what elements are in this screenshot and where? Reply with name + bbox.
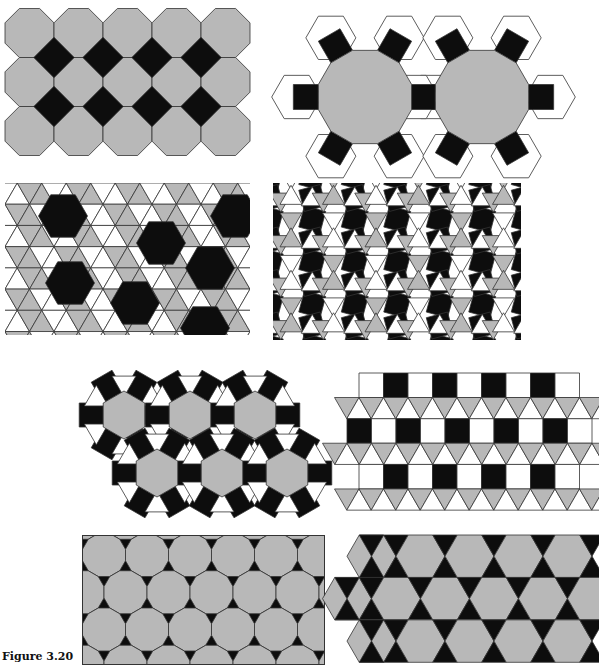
square-tile bbox=[511, 333, 538, 360]
square-tile bbox=[519, 419, 544, 444]
triangle-tile bbox=[30, 332, 55, 353]
triangle-tile bbox=[30, 162, 55, 183]
square-tile bbox=[359, 373, 384, 398]
dodecagon-tile bbox=[169, 608, 212, 651]
triangle-tile bbox=[66, 162, 91, 183]
triangle-tile bbox=[250, 289, 275, 310]
square-tile bbox=[396, 419, 421, 444]
square-tile bbox=[384, 464, 409, 489]
square-tile bbox=[256, 163, 283, 190]
square-tile bbox=[506, 373, 531, 398]
panel-trihexagonal bbox=[347, 535, 595, 665]
triangle-tile bbox=[0, 310, 5, 331]
square-tile bbox=[445, 419, 470, 444]
square-tile bbox=[408, 464, 433, 489]
dodecagon-tile bbox=[126, 534, 169, 577]
triangle-tile bbox=[128, 332, 153, 353]
panel-snub-hexagonal bbox=[5, 183, 250, 335]
triangle-tile bbox=[250, 247, 275, 268]
dodecagon-tile bbox=[255, 608, 298, 651]
triangle-tile bbox=[250, 310, 275, 331]
triangle-tile bbox=[450, 340, 472, 359]
triangle-tile bbox=[250, 225, 275, 246]
square-tile bbox=[384, 373, 409, 398]
square-tile bbox=[308, 461, 332, 485]
triangle-tile bbox=[54, 162, 79, 183]
triangle-tile bbox=[493, 340, 515, 359]
triangle-tile bbox=[201, 162, 226, 183]
dodecagon-tile bbox=[104, 571, 147, 614]
triangle-tile bbox=[525, 321, 547, 340]
snub-hexagonal-tiling bbox=[5, 183, 250, 335]
triangle-tile bbox=[79, 162, 104, 183]
triangle-tile bbox=[525, 236, 547, 255]
snub-square-tiling bbox=[273, 183, 521, 340]
triangle-tile bbox=[250, 204, 275, 225]
dodecagon-tile bbox=[233, 571, 276, 614]
triangle-tile bbox=[238, 340, 260, 359]
panel-rhombitrihexagonal bbox=[80, 358, 325, 517]
dodecagon-tile bbox=[212, 608, 255, 651]
triangle-tile bbox=[0, 268, 5, 289]
dodecagon-tile bbox=[255, 534, 298, 577]
triangle-tile bbox=[525, 193, 547, 212]
square-tile bbox=[79, 403, 103, 427]
triangle-tile bbox=[5, 162, 30, 183]
triangle-tile bbox=[226, 162, 251, 183]
square-tile bbox=[482, 373, 507, 398]
square-tile bbox=[347, 419, 372, 444]
square-tile bbox=[210, 403, 234, 427]
dodecagon-tile bbox=[318, 50, 411, 143]
square-tile bbox=[511, 312, 538, 339]
square-tile bbox=[470, 419, 495, 444]
triangle-tile bbox=[250, 183, 275, 204]
square-tile bbox=[506, 464, 531, 489]
triangle-tile bbox=[525, 278, 547, 297]
triangle-tile bbox=[0, 332, 5, 353]
triangle-tile bbox=[128, 162, 153, 183]
square-tile bbox=[555, 464, 580, 489]
square-tile bbox=[145, 403, 169, 427]
square-tile bbox=[433, 373, 458, 398]
triangle-tile bbox=[152, 162, 177, 183]
square-tile bbox=[482, 464, 507, 489]
square-tile bbox=[511, 206, 538, 233]
triangle-tile bbox=[42, 162, 67, 183]
dodecagon-tile bbox=[212, 534, 255, 577]
triangle-tile bbox=[140, 162, 165, 183]
square-tile bbox=[293, 85, 318, 110]
trihexagonal-tiling bbox=[347, 535, 595, 665]
square-tile bbox=[511, 248, 538, 275]
triangle-tile bbox=[103, 332, 128, 353]
triangle-tile bbox=[91, 162, 116, 183]
figure-caption: Figure 3.20 bbox=[2, 650, 73, 663]
panel-truncated-hexagonal bbox=[82, 535, 325, 665]
square-tile bbox=[568, 419, 593, 444]
triangle-tile bbox=[177, 162, 202, 183]
dodecagon-tile bbox=[83, 608, 126, 651]
square-tile bbox=[177, 461, 201, 485]
square-tile bbox=[511, 270, 538, 297]
dodecagon-hexagon-square-tiling bbox=[273, 3, 561, 165]
triangle-tile bbox=[17, 162, 42, 183]
square-tile bbox=[408, 373, 433, 398]
panel-elongated-triangular bbox=[347, 370, 595, 515]
square-tile bbox=[469, 163, 496, 190]
square-tile bbox=[457, 373, 482, 398]
square-tile bbox=[511, 227, 538, 254]
square-tile bbox=[359, 464, 384, 489]
triangle-tile bbox=[164, 162, 189, 183]
triangle-tile bbox=[189, 162, 214, 183]
dodecagon-tile bbox=[40, 608, 83, 651]
panel-snub-square bbox=[273, 183, 521, 340]
square-tile bbox=[511, 185, 538, 212]
triangle-tile bbox=[250, 162, 275, 183]
dodecagon-tile bbox=[276, 571, 319, 614]
dodecagon-tile bbox=[40, 534, 83, 577]
triangle-tile bbox=[115, 162, 140, 183]
square-tile bbox=[433, 464, 458, 489]
triangle-tile bbox=[323, 340, 345, 359]
dodecagon-tile bbox=[83, 534, 126, 577]
triangle-tile bbox=[0, 225, 5, 246]
triangle-tile bbox=[250, 332, 275, 353]
